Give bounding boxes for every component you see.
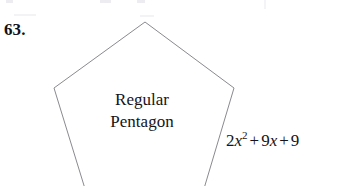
shape-caption: Regular Pentagon — [82, 89, 202, 133]
shape-caption-line-2: Pentagon — [82, 111, 202, 133]
operator-plus-2: + — [277, 131, 291, 150]
quadratic-coefficient: 2 — [226, 131, 235, 150]
shape-caption-line-1: Regular — [82, 89, 202, 111]
operator-plus-1: + — [248, 131, 262, 150]
linear-coefficient: 9 — [261, 131, 270, 150]
constant-term: 9 — [291, 131, 300, 150]
worksheet-figure-page: 63. Regular Pentagon 2x2+9x+9 — [0, 0, 350, 186]
side-length-expression: 2x2+9x+9 — [226, 131, 299, 151]
exponent-two: 2 — [242, 129, 248, 141]
variable-x: x — [235, 131, 243, 150]
